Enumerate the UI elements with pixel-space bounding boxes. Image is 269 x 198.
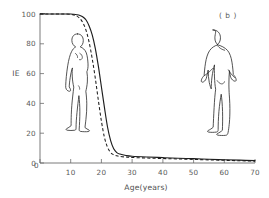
x-tick-label-70: 70 <box>250 168 260 177</box>
y-tick-label-100: 100 <box>21 10 36 19</box>
x-axis-title: Age(years) <box>124 183 168 192</box>
panel-label: ( b ) <box>219 11 237 20</box>
y-tick-label-60: 60 <box>26 69 36 78</box>
chart-svg: 0 20 40 60 80 100 0 10 20 30 40 50 60 70… <box>0 0 269 198</box>
y-axis-title: IE <box>12 69 19 78</box>
y-tick-marks <box>40 14 44 163</box>
x-tick-label-30: 30 <box>127 168 137 177</box>
male-silhouette <box>201 30 236 136</box>
y-tick-label-80: 80 <box>26 39 36 48</box>
x-tick-label-20: 20 <box>97 168 107 177</box>
x-tick-label-50: 50 <box>189 168 199 177</box>
x-tick-label-40: 40 <box>158 168 168 177</box>
x-tick-label-60: 60 <box>219 168 229 177</box>
y-tick-label-20: 20 <box>26 129 36 138</box>
x-tick-label-0: 0 <box>34 161 39 170</box>
x-tick-label-10: 10 <box>66 168 76 177</box>
figure-panel: 0 20 40 60 80 100 0 10 20 30 40 50 60 70… <box>0 0 269 198</box>
y-tick-label-40: 40 <box>26 99 36 108</box>
female-silhouette <box>66 34 90 132</box>
